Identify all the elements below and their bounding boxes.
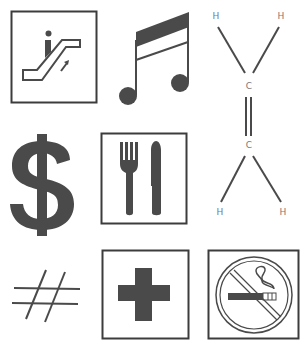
atom-h-bottom-right: H: [280, 207, 287, 217]
restaurant-icon: [102, 134, 187, 224]
no-smoking-icon: [209, 251, 299, 339]
atom-c-lower: C: [246, 140, 252, 150]
dollar-sign-icon: [10, 134, 74, 236]
atom-h-top-right: H: [278, 11, 285, 21]
hash-icon: [12, 270, 80, 322]
atom-c-upper: C: [246, 81, 252, 91]
first-aid-cross-icon: [103, 251, 189, 339]
escalator-icon: [12, 12, 97, 103]
atom-h-top-left: H: [213, 11, 220, 21]
symbol-grid: [0, 0, 306, 349]
ethylene-structure-icon: [218, 27, 281, 202]
music-note-icon: [119, 12, 189, 105]
atom-h-bottom-left: H: [217, 207, 224, 217]
